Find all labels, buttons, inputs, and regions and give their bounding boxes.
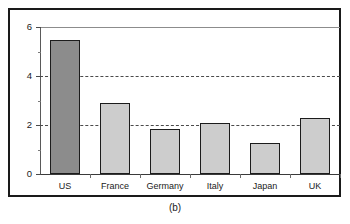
y-tick-label-0: 0 bbox=[18, 169, 32, 179]
y-tick-4 bbox=[36, 76, 41, 77]
y-tick-label-4: 4 bbox=[18, 71, 32, 81]
x-tick-label-japan: Japan bbox=[253, 181, 278, 191]
gridline-2 bbox=[40, 125, 340, 126]
plot-area: 0246USFranceGermanyItalyJapanUK bbox=[10, 10, 343, 199]
x-tick-label-us: US bbox=[59, 181, 72, 191]
bar-japan bbox=[250, 143, 280, 174]
y-tick-6 bbox=[36, 27, 41, 28]
bar-germany bbox=[150, 129, 180, 174]
y-tick-label-2: 2 bbox=[18, 120, 32, 130]
x-tick-label-germany: Germany bbox=[146, 181, 183, 191]
y-minor-tick-5 bbox=[38, 52, 41, 53]
x-tick-2 bbox=[140, 174, 141, 178]
bar-us bbox=[50, 40, 80, 174]
gridline-6 bbox=[40, 27, 340, 28]
gridline-4 bbox=[40, 76, 340, 77]
figure-panel: 0246USFranceGermanyItalyJapanUK (b) bbox=[0, 0, 350, 224]
y-tick-label-6: 6 bbox=[18, 22, 32, 32]
y-tick-2 bbox=[36, 125, 41, 126]
x-tick-label-italy: Italy bbox=[207, 181, 224, 191]
x-tick-label-france: France bbox=[101, 181, 129, 191]
x-tick-4 bbox=[240, 174, 241, 178]
y-tick-0 bbox=[36, 174, 41, 175]
y-minor-tick-1 bbox=[38, 150, 41, 151]
figure-caption: (b) bbox=[0, 202, 350, 213]
x-tick-label-uk: UK bbox=[309, 181, 322, 191]
x-tick-1 bbox=[90, 174, 91, 178]
chart-frame: 0246USFranceGermanyItalyJapanUK bbox=[8, 8, 341, 197]
x-tick-3 bbox=[190, 174, 191, 178]
bar-italy bbox=[200, 123, 230, 174]
y-minor-tick-3 bbox=[38, 101, 41, 102]
x-tick-end bbox=[340, 174, 341, 178]
bar-uk bbox=[300, 118, 330, 174]
bar-france bbox=[100, 103, 130, 174]
x-tick-5 bbox=[290, 174, 291, 178]
